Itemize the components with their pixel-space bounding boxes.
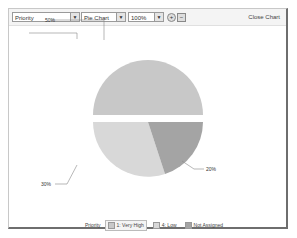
legend-label: 4: Low bbox=[162, 222, 177, 228]
label-50: 50% bbox=[45, 17, 55, 23]
legend-label: 1: Very High bbox=[117, 222, 144, 228]
chart-window: Priority ▼ Pie Chart ▼ 100% ▼ + − Close … bbox=[8, 8, 288, 229]
legend-label: Not Assigned bbox=[194, 222, 223, 228]
label-30: 30% bbox=[41, 181, 51, 187]
swatch-icon bbox=[153, 222, 160, 229]
slice-very-high[interactable] bbox=[93, 60, 203, 115]
pie-chart bbox=[9, 9, 289, 230]
swatch-icon bbox=[185, 222, 192, 229]
legend-item-not-assigned[interactable]: Not Assigned bbox=[183, 221, 225, 230]
legend-item-low[interactable]: 4: Low bbox=[151, 221, 179, 230]
legend-title: Priority bbox=[85, 222, 101, 228]
legend-item-very-high[interactable]: 1: Very High bbox=[105, 220, 147, 231]
chart-legend: Priority 1: Very High 4: Low Not Assigne… bbox=[85, 220, 225, 230]
label-20: 20% bbox=[206, 166, 216, 172]
swatch-icon bbox=[108, 222, 115, 229]
